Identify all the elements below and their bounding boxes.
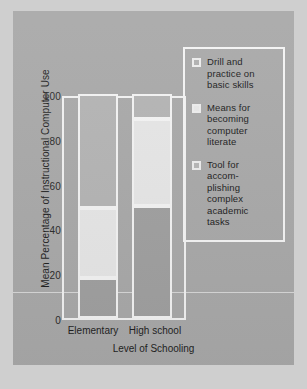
legend-swatch-icon-0 — [192, 58, 201, 67]
legend-label-1: Means forbecomingcomputerliterate — [207, 102, 250, 148]
y-axis-tick-labels: 020406080100 — [33, 96, 61, 320]
x-axis-title: Level of Schooling — [13, 343, 294, 354]
y-tick-label-40: 40 — [49, 225, 61, 236]
bar-segment-1-2 — [132, 94, 172, 119]
legend-item-2: Tool foraccom-plishingcomplexacademictas… — [192, 159, 277, 228]
stacked-bar-elementary — [78, 94, 118, 318]
bar-segment-1-1 — [132, 119, 172, 206]
legend-swatch-icon-2 — [192, 161, 201, 170]
legend-swatch-icon-1 — [192, 104, 201, 113]
legend-label-0: Drill andpractice onbasic skills — [207, 56, 255, 91]
plot-area — [62, 96, 186, 320]
bar-segment-0-2 — [78, 94, 118, 208]
legend-item-0: Drill andpractice onbasic skills — [192, 56, 277, 91]
bar-segment-0-0 — [78, 278, 118, 318]
chart-legend: Drill andpractice onbasic skillsMeans fo… — [183, 47, 285, 242]
bar-segment-1-0 — [132, 206, 172, 318]
figure-screenshot: Mean Percentage of Instructional Compute… — [0, 0, 307, 389]
legend-label-2: Tool foraccom-plishingcomplexacademictas… — [207, 159, 248, 228]
y-tick-label-80: 80 — [49, 135, 61, 146]
bar-segment-0-1 — [78, 208, 118, 277]
legend-item-1: Means forbecomingcomputerliterate — [192, 102, 277, 148]
chart-figure: Mean Percentage of Instructional Compute… — [13, 11, 294, 365]
stacked-bar-high-school — [132, 94, 172, 318]
y-tick-label-0: 0 — [55, 315, 61, 326]
y-tick-label-20: 20 — [49, 270, 61, 281]
y-tick-label-100: 100 — [44, 91, 61, 102]
y-tick-label-60: 60 — [49, 180, 61, 191]
x-tick-label-high-school: High school — [113, 325, 197, 336]
